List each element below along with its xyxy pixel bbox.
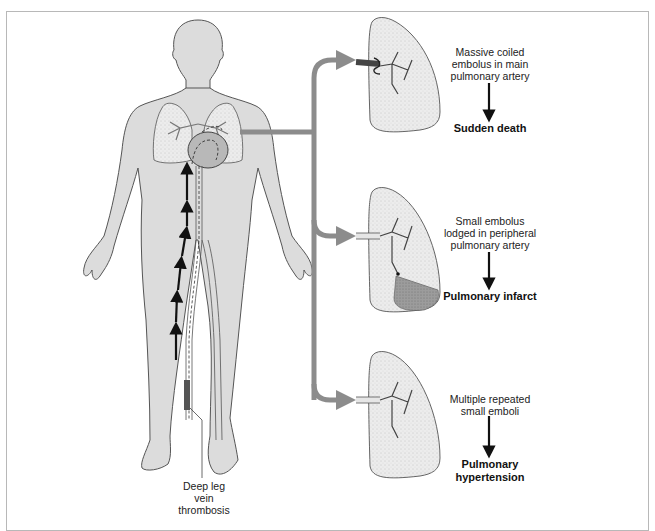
heart (188, 132, 228, 168)
thrombus (184, 380, 190, 410)
cause-label-1: Massive coiled embolus in main pulmonary… (444, 46, 536, 82)
cause-label-2: Small embolus lodged in peripheral pulmo… (436, 215, 544, 251)
human-body-figure (84, 20, 313, 474)
lung-pulmonary-hypertension (356, 352, 440, 478)
cause-label-3: Multiple repeated small emboli (436, 393, 544, 417)
result-label-3: Pulmonary hypertension (436, 458, 544, 484)
result-label-2: Pulmonary infarct (436, 290, 544, 303)
lung-pulmonary-infarct (356, 188, 440, 312)
head (173, 20, 224, 90)
source-label: Deep leg vein thrombosis (172, 480, 236, 516)
lung-sudden-death (356, 18, 440, 132)
result-label-1: Sudden death (444, 122, 536, 135)
